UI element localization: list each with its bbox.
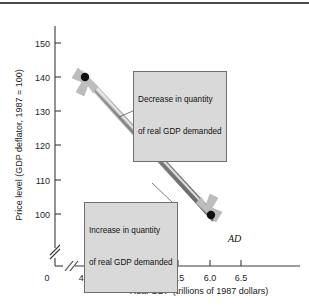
y-axis — [50, 26, 61, 266]
y-axis-title: Price level (GDP deflator, 1987 = 100) — [14, 69, 24, 221]
y-tick-label-120: 120 — [35, 141, 50, 151]
y-tick-label-150: 150 — [35, 39, 50, 49]
callout-decrease-in-quantity: Decrease in quantity of real GDP demande… — [133, 71, 227, 162]
y-tick-label-140: 140 — [35, 73, 50, 83]
callout-decrease-line2: of real GDP demanded — [138, 127, 222, 138]
data-point-6-100 — [207, 211, 215, 219]
data-point-4-140 — [81, 73, 89, 81]
x-tick-label-6-0: 6.0 — [204, 273, 217, 283]
callout-increase-in-quantity: Increase in quantity of real GDP demande… — [84, 202, 178, 293]
callout-decrease-line1: Decrease in quantity — [138, 95, 222, 106]
origin-label: 0 — [44, 273, 49, 283]
y-tick-label-130: 130 — [35, 107, 50, 117]
x-tick-label-6-5: 6.5 — [235, 273, 248, 283]
aggregate-demand-chart: 150 140 130 120 110 100 0 4.0 4.5 5.0 5.… — [0, 0, 309, 306]
increase-leader-line — [152, 183, 172, 202]
y-tick-label-110: 110 — [36, 176, 50, 186]
callout-increase-line2: of real GDP demanded — [89, 258, 173, 269]
callout-increase-line1: Increase in quantity — [89, 226, 173, 237]
ad-curve-label: AD — [227, 233, 242, 244]
y-tick-label-100: 100 — [35, 210, 50, 220]
